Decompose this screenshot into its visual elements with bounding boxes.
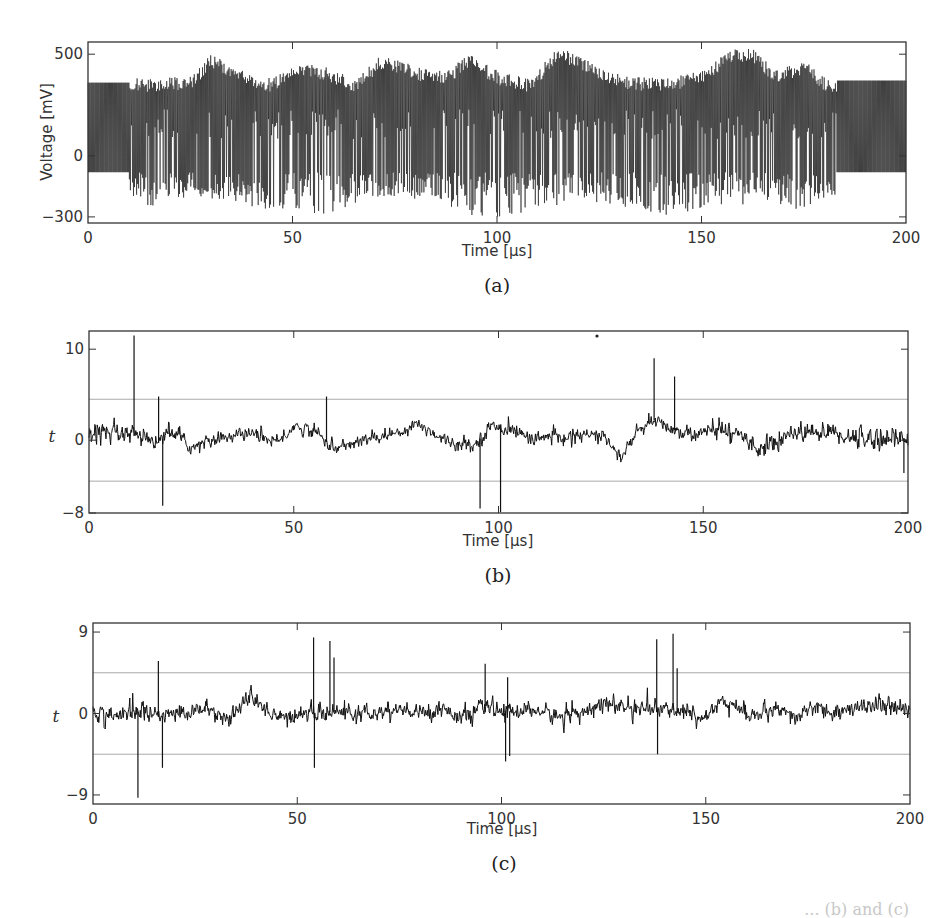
x-tick-label: 150: [691, 810, 720, 828]
caption-fragment: ... (b) and (c): [0, 900, 949, 918]
x-axis-label: Time [µs]: [466, 820, 538, 838]
y-tick-label: −9: [66, 786, 88, 804]
x-tick-label: 50: [288, 810, 307, 828]
t-statistic-chart-c: 050100150200−909 Time [µs] t: [0, 0, 949, 900]
x-tick-label: 0: [88, 810, 98, 828]
panel-sublabel: (c): [474, 852, 534, 874]
t-trace-c: [93, 634, 910, 798]
t-line: [93, 685, 910, 733]
panel-c: 050100150200−909 Time [µs] t (c): [0, 0, 949, 900]
y-axis-label: t: [53, 706, 60, 726]
y-tick-label: 9: [78, 623, 88, 641]
x-tick-label: 200: [896, 810, 925, 828]
y-tick-label: 0: [78, 705, 88, 723]
axis-ticks: 050100150200−909: [66, 623, 924, 828]
